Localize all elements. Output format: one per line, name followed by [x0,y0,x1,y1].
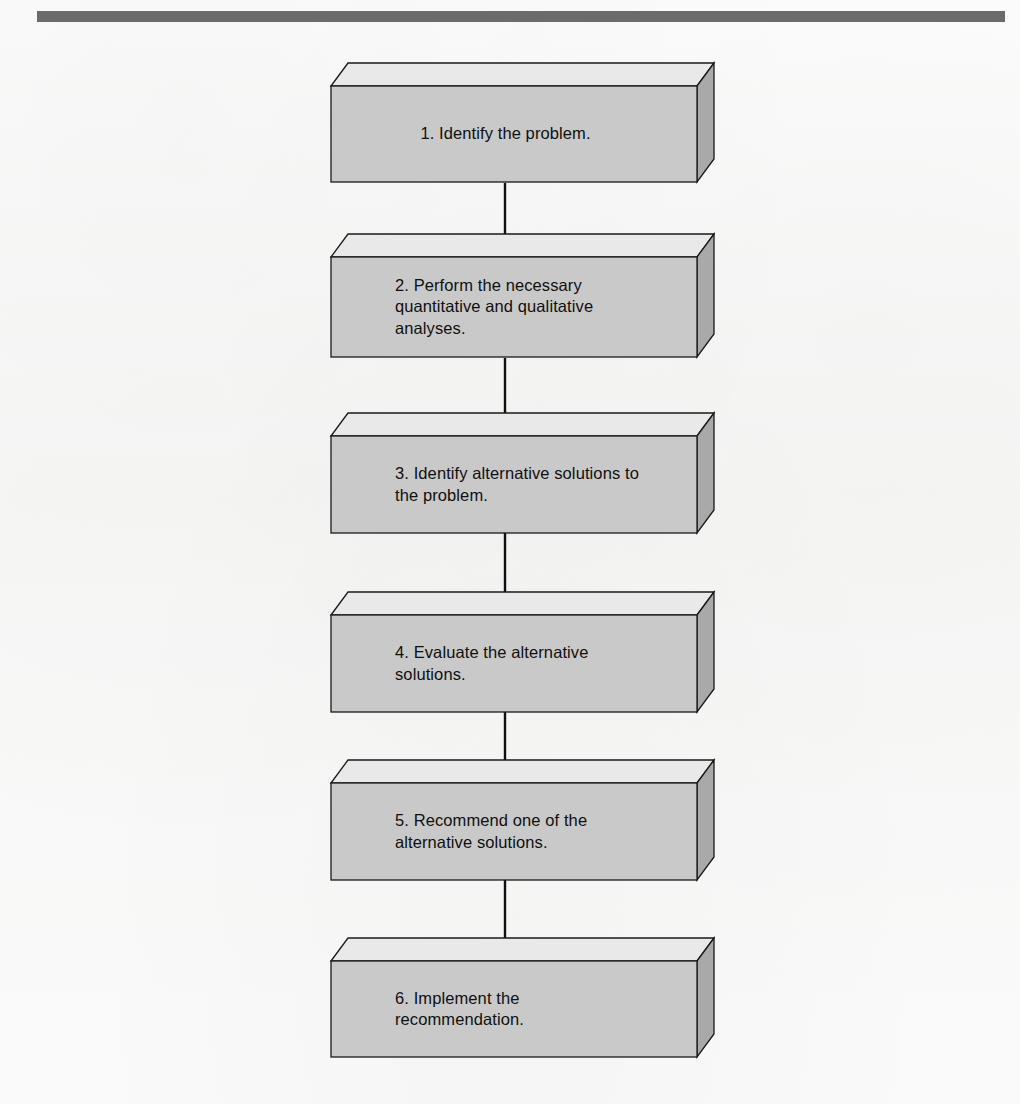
flow-step-box-5: 5. Recommend one of the alternative solu… [331,760,697,880]
flow-step-label-4: 4. Evaluate the alternative solutions. [395,642,657,685]
flow-step-label-3: 3. Identify alternative solutions to the… [395,463,657,506]
box-top-face-5 [331,760,714,783]
flow-step-label-6: 6. Implement the recommendation. [395,988,657,1031]
flowchart-diagram: 1. Identify the problem.2. Perform the n… [0,0,1020,1104]
flow-step-label-2: 2. Perform the necessary quantitative an… [395,275,657,340]
box-top-face-4 [331,592,714,615]
flow-step-box-2: 2. Perform the necessary quantitative an… [331,234,697,357]
box-top-face-1 [331,63,714,86]
flow-step-box-3: 3. Identify alternative solutions to the… [331,413,697,533]
box-top-face-3 [331,413,714,436]
box-top-face-2 [331,234,714,257]
flow-step-label-1: 1. Identify the problem. [331,123,680,145]
flow-step-label-5: 5. Recommend one of the alternative solu… [395,810,657,853]
box-top-face-6 [331,938,714,961]
flow-step-box-4: 4. Evaluate the alternative solutions. [331,592,697,712]
flow-step-box-1: 1. Identify the problem. [331,63,697,182]
flow-step-box-6: 6. Implement the recommendation. [331,938,697,1057]
